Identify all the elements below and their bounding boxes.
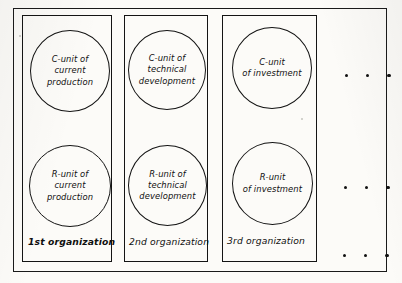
ellipsis-dot (364, 254, 367, 257)
unit-circle-r-unit-2: R-unit of technical development (128, 145, 207, 226)
unit-circle-c-unit-2: C-unit of technical development (128, 30, 206, 110)
ellipsis-dot (365, 186, 368, 189)
unit-circle-c-unit-3: C-unit of investment (232, 27, 312, 109)
unit-circle-c-unit-1: C-unit of current production (30, 30, 110, 112)
ellipsis-dots-row-3 (343, 254, 389, 257)
ellipsis-dot (366, 74, 369, 77)
unit-label: C-unit of investment (238, 57, 305, 79)
organization-caption-2: 2nd organization (129, 236, 209, 247)
organization-caption-1: 1st organization (28, 236, 115, 247)
unit-circle-r-unit-3: R-unit of investment (232, 142, 313, 225)
unit-label: R-unit of technical development (135, 169, 199, 202)
unit-label: C-unit of technical development (135, 53, 199, 86)
unit-label: C-unit of current production (43, 54, 97, 87)
diagram-figure: C-unit of current production R-unit of c… (0, 0, 402, 283)
organization-caption-3: 3rd organization (227, 235, 305, 246)
unit-label: R-unit of investment (239, 172, 306, 194)
unit-circle-r-unit-1: R-unit of current production (29, 145, 111, 227)
ellipsis-dot (344, 186, 347, 189)
ellipsis-dot (385, 254, 388, 257)
unit-label: R-unit of current production (43, 169, 97, 202)
ellipsis-dots-row-1 (345, 74, 391, 77)
ellipsis-dot (386, 186, 389, 189)
ellipsis-dot (345, 74, 348, 77)
ellipsis-dot (343, 254, 346, 257)
ellipsis-dot (387, 74, 390, 77)
ellipsis-dots-row-2 (344, 186, 390, 189)
